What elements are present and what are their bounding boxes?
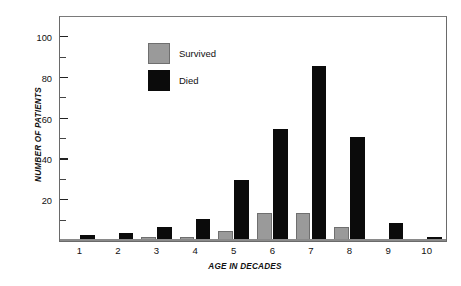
x-tick-label-8: 8 bbox=[347, 245, 352, 257]
y-tick-major-60 bbox=[60, 118, 68, 119]
bar-died-decade-4 bbox=[196, 219, 211, 241]
y-tick-minor-70 bbox=[60, 97, 66, 98]
y-tick-label-80: 80 bbox=[42, 75, 52, 84]
x-tick-label-4: 4 bbox=[192, 245, 197, 257]
x-axis-baseline bbox=[60, 239, 446, 241]
legend-item-died: Died bbox=[148, 70, 268, 94]
bar-survived-decade-6 bbox=[257, 213, 272, 242]
y-tick-major-20 bbox=[60, 199, 68, 200]
bar-survived-decade-7 bbox=[296, 213, 311, 242]
chart-legend: Survived Died bbox=[148, 43, 268, 97]
legend-item-survived: Survived bbox=[148, 43, 268, 67]
y-tick-label-60: 60 bbox=[42, 116, 52, 125]
x-tick-label-10: 10 bbox=[421, 245, 432, 257]
x-axis-title: AGE IN DECADES bbox=[60, 262, 430, 271]
y-tick-major-40 bbox=[60, 158, 68, 159]
y-tick-minor-30 bbox=[60, 179, 66, 180]
bar-died-decade-5 bbox=[234, 180, 249, 241]
x-tick-label-7: 7 bbox=[308, 245, 313, 257]
y-tick-major-100 bbox=[60, 36, 68, 37]
y-tick-label-100: 100 bbox=[36, 34, 52, 43]
legend-swatch-died-icon bbox=[148, 70, 170, 91]
legend-label-survived: Survived bbox=[179, 48, 216, 59]
x-tick-label-2: 2 bbox=[115, 245, 120, 257]
y-tick-minor-50 bbox=[60, 138, 66, 139]
legend-label-died: Died bbox=[179, 75, 199, 86]
x-tick-label-3: 3 bbox=[154, 245, 159, 257]
y-tick-major-80 bbox=[60, 77, 68, 78]
y-tick-minor-10 bbox=[60, 220, 66, 221]
bar-died-decade-8 bbox=[350, 137, 365, 241]
plot-frame: Survived Died bbox=[59, 16, 447, 242]
y-tick-label-40: 40 bbox=[42, 156, 52, 165]
legend-swatch-survived-icon bbox=[148, 43, 170, 64]
x-tick-label-5: 5 bbox=[231, 245, 236, 257]
x-tick-label-9: 9 bbox=[385, 245, 390, 257]
y-tick-label-20: 20 bbox=[42, 197, 52, 206]
bar-chart-figure: NUMBER OF PATIENTS 20406080100 Survived … bbox=[0, 0, 461, 286]
bar-died-decade-6 bbox=[273, 129, 288, 241]
x-axis-tick-labels: 12345678910 bbox=[59, 245, 447, 261]
x-tick-label-6: 6 bbox=[270, 245, 275, 257]
x-tick-label-1: 1 bbox=[77, 245, 82, 257]
bar-died-decade-7 bbox=[312, 66, 327, 241]
y-axis-tick-labels: 20406080100 bbox=[0, 16, 58, 242]
y-tick-minor-90 bbox=[60, 57, 66, 58]
